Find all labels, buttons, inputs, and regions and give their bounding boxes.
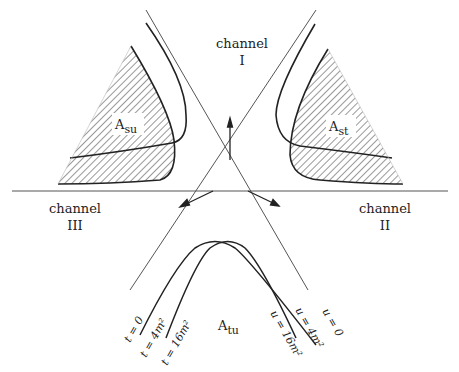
svg-text:channel: channel bbox=[359, 201, 411, 216]
svg-text:channel: channel bbox=[49, 201, 101, 216]
region-label-asu: Asu bbox=[112, 113, 144, 136]
svg-text:channel: channel bbox=[216, 36, 268, 51]
region-label-ast: Ast bbox=[326, 115, 356, 138]
svg-text:Atu: Atu bbox=[217, 318, 239, 337]
svg-text:III: III bbox=[67, 218, 82, 233]
arrow-down-left-icon bbox=[180, 191, 213, 207]
arrow-up-icon bbox=[228, 118, 233, 160]
arrow-down-right-icon bbox=[248, 191, 279, 206]
mandelstam-diagram: channel I channel III channel II Asu Ast… bbox=[0, 0, 459, 372]
svg-text:II: II bbox=[380, 218, 390, 233]
channel-II-label: channel II bbox=[359, 201, 411, 233]
svg-text:I: I bbox=[239, 53, 244, 68]
region-label-atu: Atu bbox=[217, 318, 239, 337]
label-u-0: u = 0 bbox=[319, 306, 345, 339]
channel-III-label: channel III bbox=[49, 201, 101, 233]
channel-I-label: channel I bbox=[216, 36, 268, 68]
